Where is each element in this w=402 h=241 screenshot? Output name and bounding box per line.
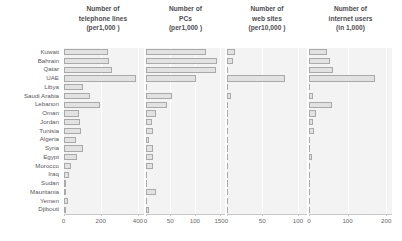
x-axis-2: 050100150 bbox=[146, 214, 225, 228]
plot-panel-3 bbox=[227, 48, 307, 214]
bar bbox=[146, 163, 153, 169]
bar bbox=[227, 128, 228, 134]
bar bbox=[146, 119, 153, 125]
panel-title-line: Number of bbox=[146, 4, 225, 14]
panel-title-line: (per10,000 ) bbox=[227, 23, 307, 33]
axis-tick-label: 200 bbox=[381, 217, 391, 225]
bar bbox=[309, 102, 332, 108]
gridline bbox=[348, 48, 349, 214]
axis-tick bbox=[146, 214, 147, 216]
axis-tick-label: 200 bbox=[96, 217, 106, 225]
country-label: Qatar bbox=[44, 65, 59, 74]
axis-tick-label: 100 bbox=[190, 217, 200, 225]
country-label: Morocco bbox=[35, 162, 59, 171]
bar bbox=[64, 189, 66, 195]
x-axis-1: 0200400 bbox=[64, 214, 144, 228]
axis-line bbox=[146, 214, 225, 215]
bar bbox=[227, 207, 228, 213]
axis-tick bbox=[195, 214, 196, 216]
plot-background bbox=[227, 48, 307, 214]
bar bbox=[227, 198, 228, 204]
bar bbox=[64, 154, 78, 160]
bar bbox=[146, 49, 207, 55]
axis-tick-label: 0 bbox=[62, 217, 65, 225]
bar bbox=[309, 137, 310, 143]
bar bbox=[227, 67, 228, 73]
country-label-column: KuwaitBahrainQatarUAELibyaSaudi ArabiaLe… bbox=[0, 48, 62, 214]
bar bbox=[146, 189, 157, 195]
gridline bbox=[298, 48, 299, 214]
country-label: Egypt bbox=[43, 153, 59, 162]
bar bbox=[309, 110, 316, 116]
panel-title-4: Number ofinternet users(in 1,000) bbox=[309, 4, 392, 33]
bar bbox=[227, 84, 228, 90]
panel-title-2: Number ofPCs(per1,000 ) bbox=[146, 4, 225, 33]
panel-title-line: (in 1,000) bbox=[309, 23, 392, 33]
panel-title-line: (per1,000 ) bbox=[63, 23, 143, 33]
bar bbox=[227, 180, 228, 186]
bar bbox=[64, 207, 67, 213]
country-label: Saudi Arabia bbox=[24, 92, 59, 101]
axis-tick bbox=[348, 214, 349, 216]
panel-title-3: Number ofweb sites(per10,000 ) bbox=[227, 4, 307, 33]
country-label: Yemen bbox=[40, 197, 59, 206]
bar bbox=[146, 84, 147, 90]
bar bbox=[227, 145, 228, 151]
country-label: Mauritania bbox=[30, 188, 59, 197]
axis-tick bbox=[298, 214, 299, 216]
chart-figure: Number oftelephone lines(per1,000 )Numbe… bbox=[0, 0, 402, 241]
bar bbox=[309, 189, 310, 195]
bar bbox=[146, 207, 149, 213]
plot-panel-2 bbox=[146, 48, 225, 214]
country-label: Algeria bbox=[40, 135, 59, 144]
axis-tick-label: 0 bbox=[144, 217, 147, 225]
panel-title-line: PCs bbox=[146, 14, 225, 24]
axis-tick-label: 50 bbox=[167, 217, 174, 225]
bar bbox=[309, 154, 312, 160]
bar bbox=[309, 58, 330, 64]
bar bbox=[309, 93, 313, 99]
bar bbox=[309, 198, 310, 204]
axis-tick bbox=[138, 214, 139, 216]
bar bbox=[227, 119, 228, 125]
country-label: Libya bbox=[44, 83, 59, 92]
bar bbox=[146, 180, 147, 186]
country-label: Iraq bbox=[48, 170, 59, 179]
bar bbox=[146, 172, 147, 178]
bar bbox=[309, 172, 310, 178]
axis-tick bbox=[101, 214, 102, 216]
country-label: Sudan bbox=[41, 179, 59, 188]
bar bbox=[227, 93, 231, 99]
bar bbox=[227, 189, 228, 195]
bar bbox=[64, 58, 110, 64]
bar bbox=[146, 198, 147, 204]
bar bbox=[309, 84, 310, 90]
plot-panel-1 bbox=[64, 48, 144, 214]
country-label: UAE bbox=[46, 74, 59, 83]
bar bbox=[64, 145, 84, 151]
axis-tick-label: 50 bbox=[259, 217, 266, 225]
bar bbox=[64, 49, 109, 55]
panel-title-line: telephone lines bbox=[63, 14, 143, 24]
bar bbox=[64, 67, 112, 73]
country-label: Bahrain bbox=[38, 57, 59, 66]
bar bbox=[227, 58, 233, 64]
bar bbox=[309, 180, 310, 186]
bar bbox=[146, 145, 153, 151]
bar bbox=[64, 198, 68, 204]
axis-line bbox=[227, 214, 307, 215]
axis-tick-label: 150 bbox=[214, 217, 224, 225]
axis-tick-label: 0 bbox=[225, 217, 228, 225]
axis-tick bbox=[170, 214, 171, 216]
bar bbox=[146, 110, 156, 116]
panel-title-line: internet users bbox=[309, 14, 392, 24]
country-label: Oman bbox=[42, 109, 59, 118]
bar bbox=[64, 75, 137, 81]
country-label: Lebanon bbox=[35, 100, 59, 109]
axis-tick bbox=[64, 214, 65, 216]
bar bbox=[64, 180, 67, 186]
bar bbox=[64, 110, 80, 116]
bar bbox=[227, 172, 228, 178]
bar bbox=[146, 75, 196, 81]
country-label: Jordan bbox=[40, 118, 59, 127]
